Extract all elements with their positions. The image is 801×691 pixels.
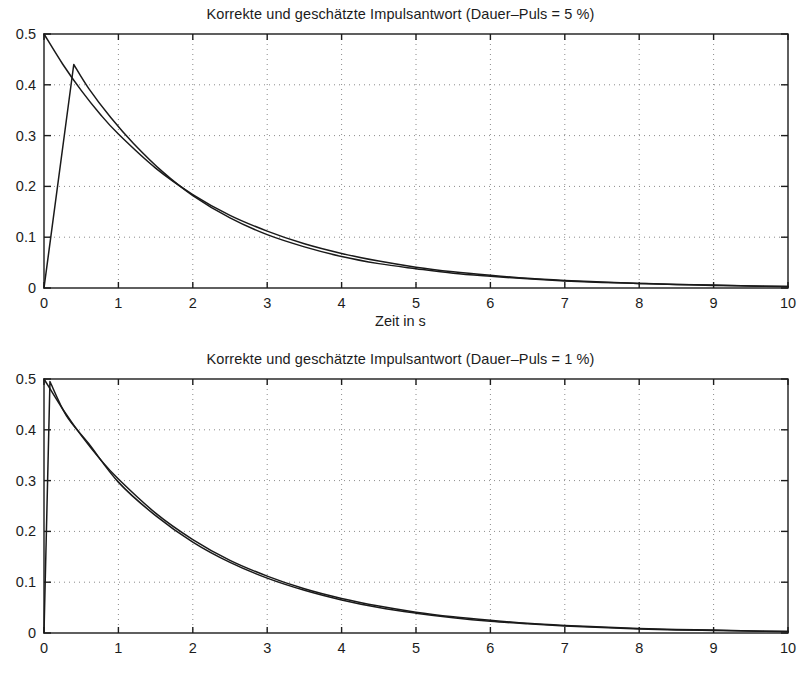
x-tick-label: 6 bbox=[486, 640, 494, 656]
x-tick-label: 9 bbox=[710, 295, 718, 311]
gridlines bbox=[44, 379, 788, 633]
x-tick-label: 6 bbox=[486, 295, 494, 311]
x-axis-label-top: Zeit in s bbox=[0, 313, 801, 329]
chart-panel-bottom: Korrekte und geschätzte Impulsantwort (D… bbox=[0, 345, 801, 691]
plot-area-top: 01234567891000.10.20.30.40.5 bbox=[0, 0, 801, 346]
x-tick-label: 3 bbox=[263, 295, 271, 311]
chart-panel-top: Korrekte und geschätzte Impulsantwort (D… bbox=[0, 0, 801, 345]
x-tick-label: 0 bbox=[40, 295, 48, 311]
x-tick-label: 7 bbox=[561, 295, 569, 311]
x-tick-label: 2 bbox=[189, 640, 197, 656]
x-tick-label: 1 bbox=[114, 295, 122, 311]
y-tick-label: 0.5 bbox=[16, 371, 36, 387]
y-tick-label: 0.2 bbox=[16, 178, 36, 194]
y-tick-label: 0.4 bbox=[16, 77, 36, 93]
x-tick-label: 0 bbox=[40, 640, 48, 656]
x-tick-label: 2 bbox=[189, 295, 197, 311]
x-tick-label: 8 bbox=[635, 640, 643, 656]
x-tick-label: 5 bbox=[412, 640, 420, 656]
x-tick-label: 8 bbox=[635, 295, 643, 311]
y-tick-label: 0.5 bbox=[16, 26, 36, 42]
figure-canvas: Korrekte und geschätzte Impulsantwort (D… bbox=[0, 0, 801, 691]
y-tick-label: 0 bbox=[28, 280, 36, 296]
plot-area-bottom: 01234567891000.10.20.30.40.5 bbox=[0, 345, 801, 691]
curve-true bbox=[44, 379, 788, 631]
x-tick-label: 5 bbox=[412, 295, 420, 311]
gridlines bbox=[44, 34, 788, 288]
axes: 01234567891000.10.20.30.40.5 bbox=[16, 26, 796, 311]
x-tick-label: 4 bbox=[338, 295, 346, 311]
y-tick-label: 0.4 bbox=[16, 422, 36, 438]
y-tick-label: 0.3 bbox=[16, 128, 36, 144]
y-tick-label: 0.3 bbox=[16, 473, 36, 489]
x-tick-label: 9 bbox=[710, 640, 718, 656]
x-tick-label: 4 bbox=[338, 640, 346, 656]
y-tick-label: 0 bbox=[28, 625, 36, 641]
x-tick-label: 10 bbox=[780, 640, 796, 656]
curve-true bbox=[44, 34, 788, 286]
axes: 01234567891000.10.20.30.40.5 bbox=[16, 371, 796, 656]
y-tick-label: 0.1 bbox=[16, 229, 36, 245]
x-tick-label: 10 bbox=[780, 295, 796, 311]
x-tick-label: 7 bbox=[561, 640, 569, 656]
x-tick-label: 1 bbox=[114, 640, 122, 656]
y-tick-label: 0.2 bbox=[16, 523, 36, 539]
x-tick-label: 3 bbox=[263, 640, 271, 656]
y-tick-label: 0.1 bbox=[16, 574, 36, 590]
